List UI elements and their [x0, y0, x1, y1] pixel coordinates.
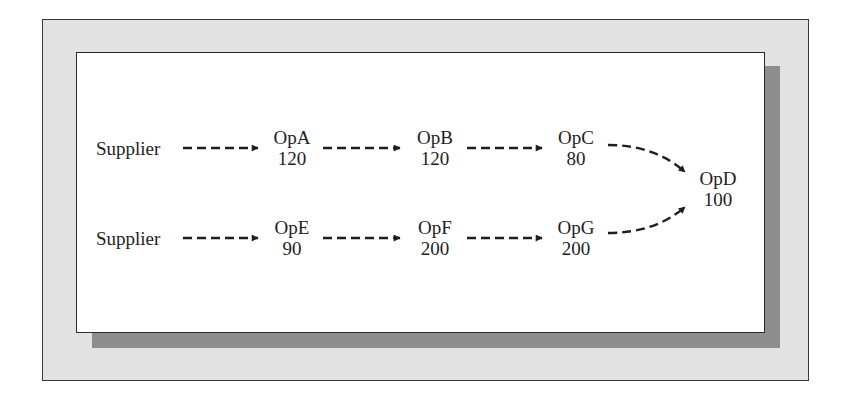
arrow-opc-opd	[608, 145, 685, 172]
node-ope: OpE 90	[262, 217, 322, 259]
node-supplier-1: Supplier	[96, 138, 160, 159]
node-supplier-2: Supplier	[96, 228, 160, 249]
node-label: Supplier	[96, 228, 160, 249]
node-opf: OpF 200	[405, 217, 465, 259]
node-opa: OpA 120	[262, 127, 322, 169]
node-opg: OpG 200	[546, 217, 606, 259]
node-value: 80	[546, 148, 606, 169]
node-value: 120	[262, 148, 322, 169]
node-value: 90	[262, 238, 322, 259]
node-value: 200	[405, 238, 465, 259]
node-label: Supplier	[96, 138, 160, 159]
arrow-opg-opd	[608, 207, 685, 233]
node-opd: OpD 100	[688, 168, 748, 210]
node-label: OpB	[405, 127, 465, 148]
node-label: OpE	[262, 217, 322, 238]
node-opb: OpB 120	[405, 127, 465, 169]
node-value: 200	[546, 238, 606, 259]
node-label: OpD	[688, 168, 748, 189]
node-label: OpA	[262, 127, 322, 148]
node-label: OpF	[405, 217, 465, 238]
node-label: OpG	[546, 217, 606, 238]
node-value: 100	[688, 189, 748, 210]
node-label: OpC	[546, 127, 606, 148]
node-opc: OpC 80	[546, 127, 606, 169]
node-value: 120	[405, 148, 465, 169]
